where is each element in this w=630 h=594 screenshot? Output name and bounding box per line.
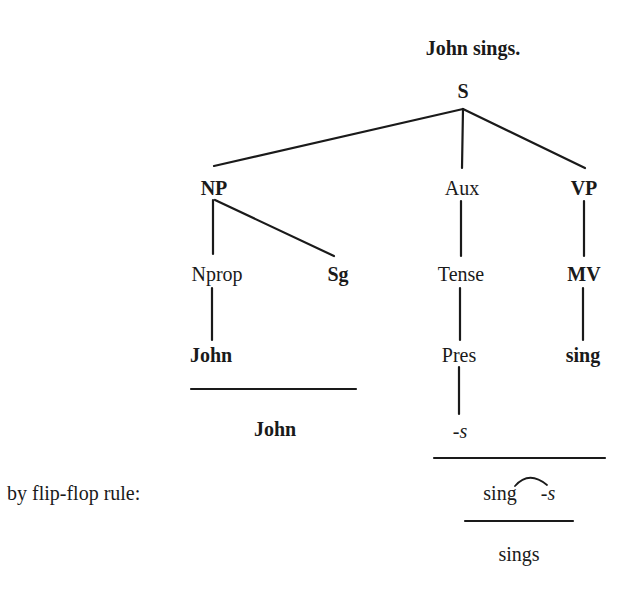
node-sg: Sg — [327, 263, 348, 285]
node-sing: sing — [566, 344, 600, 366]
final-result: sings — [498, 543, 539, 565]
flip-flop-suffix: -s — [541, 482, 555, 504]
node-pres: Pres — [442, 344, 476, 366]
branch-np-sg — [215, 200, 334, 256]
node-nprop: Nprop — [191, 263, 242, 285]
branch-s-vp — [463, 109, 585, 168]
node-s-suffix: -s — [453, 420, 467, 442]
node-s: S — [457, 80, 468, 102]
node-np: NP — [201, 177, 228, 199]
flip-flop-rule-label: by flip-flop rule: — [7, 482, 140, 504]
node-tense: Tense — [438, 263, 484, 285]
flip-flop-stem: sing — [483, 482, 516, 504]
branch-s-aux — [462, 109, 463, 168]
phrase-structure-diagram: John sings. S NP Aux VP Nprop Sg Tense M… — [0, 0, 630, 594]
branch-s-np — [214, 109, 463, 166]
sentence-title: John sings. — [426, 37, 521, 59]
node-aux: Aux — [445, 177, 479, 199]
np-result: John — [254, 418, 296, 440]
node-vp: VP — [571, 177, 598, 199]
node-john: John — [190, 344, 232, 366]
tree-branches — [0, 0, 630, 594]
node-mv: MV — [567, 263, 600, 285]
